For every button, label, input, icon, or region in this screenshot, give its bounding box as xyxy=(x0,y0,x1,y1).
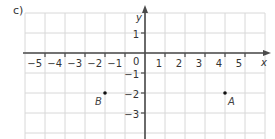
point-label-b: B xyxy=(95,96,102,107)
point-b xyxy=(103,91,107,95)
y-tick-label: −3 xyxy=(124,109,139,120)
y-axis-label: y xyxy=(135,12,143,23)
ticks: −5−4−3−2−1123451−1−2−3 xyxy=(27,29,245,120)
x-tick-label: 2 xyxy=(176,58,182,69)
x-axis-arrow-icon xyxy=(263,50,271,56)
coordinate-plane: xy0 −5−4−3−2−1123451−1−2−3 BA xyxy=(0,0,275,139)
origin-label: 0 xyxy=(133,56,139,67)
x-tick-label: 4 xyxy=(216,58,222,69)
x-tick-label: 5 xyxy=(236,58,242,69)
x-tick-label: −2 xyxy=(87,58,102,69)
x-tick-label: 3 xyxy=(196,58,202,69)
point-label-a: A xyxy=(227,96,235,107)
x-tick-label: 1 xyxy=(156,58,162,69)
y-axis-arrow-icon xyxy=(142,5,148,13)
y-tick-label: −2 xyxy=(124,89,139,100)
x-tick-label: −5 xyxy=(27,58,42,69)
y-tick-label: 1 xyxy=(133,29,139,40)
x-tick-label: −4 xyxy=(47,58,62,69)
x-tick-label: −3 xyxy=(67,58,82,69)
x-axis-label: x xyxy=(260,57,267,68)
axes: xy0 xyxy=(23,5,271,139)
point-a xyxy=(223,91,227,95)
y-tick-label: −1 xyxy=(124,69,139,80)
x-tick-label: −1 xyxy=(107,58,122,69)
